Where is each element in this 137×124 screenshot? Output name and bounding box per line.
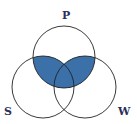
shaded-region [12,56,116,118]
label-s: S [4,105,12,118]
label-w: W [117,105,131,118]
label-p: P [62,9,70,22]
venn-diagram: P S W [0,0,137,124]
